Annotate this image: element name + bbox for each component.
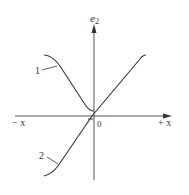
x-axis-positive-label: + x [158, 117, 171, 128]
curve-1-label: 1 [35, 65, 40, 76]
diagram: e2 − x + x 0 1 2 [0, 0, 189, 195]
curve-1-right-branch [92, 55, 146, 116]
curve-2 [44, 116, 92, 176]
curve-2-leader [47, 157, 58, 164]
x-axis-negative-label: − x [12, 117, 25, 128]
y-axis [92, 24, 97, 180]
curve-2-label: 2 [39, 150, 44, 161]
origin-label: 0 [97, 119, 102, 129]
curve-1-leader [42, 66, 57, 70]
y-axis-label: e2 [90, 12, 99, 26]
curve-1 [44, 55, 94, 111]
